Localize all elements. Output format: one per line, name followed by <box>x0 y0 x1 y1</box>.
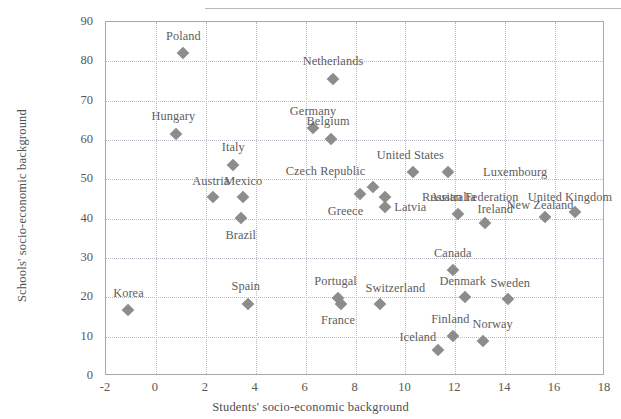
x-tick-label: 14 <box>498 380 511 395</box>
x-tick-label: 10 <box>398 380 411 395</box>
x-tick-label: 18 <box>598 380 611 395</box>
x-tick-label: 12 <box>448 380 461 395</box>
x-tick-label: 0 <box>152 380 158 395</box>
x-tick-label: 6 <box>301 380 307 395</box>
y-axis-title: Schools' socio-economic background <box>15 56 30 356</box>
x-tick-label: 4 <box>252 380 258 395</box>
x-axis-title: Students' socio-economic background <box>0 400 621 415</box>
x-tick-label: 8 <box>351 380 357 395</box>
scatter-chart: PolandNetherlandsGermanyHungaryBelgiumIt… <box>0 0 621 419</box>
x-axis-tick-labels: -2024681012141618 <box>0 0 621 419</box>
x-tick-label: 2 <box>202 380 208 395</box>
x-tick-label: 16 <box>548 380 561 395</box>
x-tick-label: -2 <box>100 380 110 395</box>
